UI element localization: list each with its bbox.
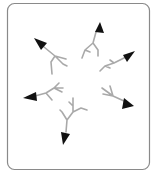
diagram-canvas <box>0 0 153 174</box>
radial-arrows-diagram <box>0 0 153 174</box>
diagram-frame <box>8 4 150 170</box>
